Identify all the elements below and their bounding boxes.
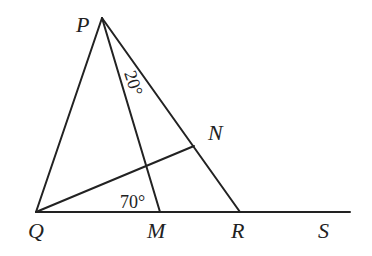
segment-pm <box>102 18 160 212</box>
label-s: S <box>318 218 329 243</box>
segment-pq <box>36 18 102 212</box>
segment-pr <box>102 18 240 212</box>
label-r: R <box>230 218 245 243</box>
segment-qn <box>36 146 194 212</box>
triangle-diagram: P N Q M R S 20° 70° <box>0 0 372 256</box>
label-n: N <box>207 120 224 145</box>
label-m: M <box>146 218 167 243</box>
angle-label-70: 70° <box>120 192 145 212</box>
label-p: P <box>75 12 89 37</box>
label-q: Q <box>28 218 44 243</box>
